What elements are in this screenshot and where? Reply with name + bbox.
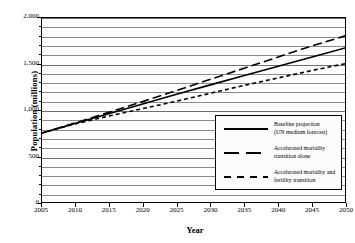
y-tick-mark: [39, 82, 42, 83]
y-tick-label: 500: [5, 153, 39, 160]
y-tick-mark: [39, 54, 42, 55]
y-tick-mark: [39, 175, 42, 176]
legend-label: Baseline projection(UN medium forecast): [274, 120, 342, 136]
y-tick-mark: [39, 91, 42, 92]
x-axis-title: Year: [40, 225, 350, 235]
y-tick-mark: [39, 194, 42, 195]
x-tick-mark: [177, 203, 178, 207]
y-tick-mark: [37, 110, 41, 111]
x-tick-mark: [244, 203, 245, 207]
legend-line-sample: [224, 176, 268, 178]
legend-item: Accelerated mortality andfertility trans…: [216, 167, 341, 191]
x-tick-mark: [143, 203, 144, 207]
legend-label: Accelerated mortality andfertility trans…: [274, 168, 342, 184]
x-tick-mark: [210, 203, 211, 207]
x-tick-mark: [278, 203, 279, 207]
x-tick-mark: [312, 203, 313, 207]
y-tick-mark: [39, 147, 42, 148]
legend-item: Baseline projection(UN medium forecast): [216, 119, 341, 143]
population-projection-chart: Population (millions) 05001,0001,5002,00…: [0, 0, 355, 243]
y-tick-mark: [39, 166, 42, 167]
y-tick-mark: [39, 184, 42, 185]
y-tick-mark: [37, 157, 41, 158]
legend-line-sample: [224, 152, 268, 154]
x-tick-mark: [109, 203, 110, 207]
x-tick-mark: [346, 203, 347, 207]
y-tick-mark: [39, 73, 42, 74]
y-tick-mark: [39, 129, 42, 130]
y-tick-mark: [39, 101, 42, 102]
y-tick-mark: [39, 45, 42, 46]
y-tick-label: 1,500: [5, 60, 39, 67]
legend-item: Accelerated mortalitytransition alone: [216, 143, 341, 167]
y-tick-mark: [39, 36, 42, 37]
y-tick-mark: [39, 26, 42, 27]
y-tick-mark: [39, 138, 42, 139]
chart-legend: Baseline projection(UN medium forecast)A…: [215, 115, 342, 190]
y-tick-label: 1,000: [5, 106, 39, 113]
y-tick-label: 0: [5, 199, 39, 206]
x-tick-mark: [41, 203, 42, 207]
x-tick-label: 2050: [326, 207, 355, 214]
y-tick-mark: [37, 64, 41, 65]
y-tick-mark: [39, 119, 42, 120]
y-tick-mark: [37, 17, 41, 18]
x-tick-mark: [75, 203, 76, 207]
legend-line-sample: [224, 128, 268, 130]
legend-label: Accelerated mortalitytransition alone: [274, 144, 342, 160]
y-tick-label: 2,000: [5, 13, 39, 20]
